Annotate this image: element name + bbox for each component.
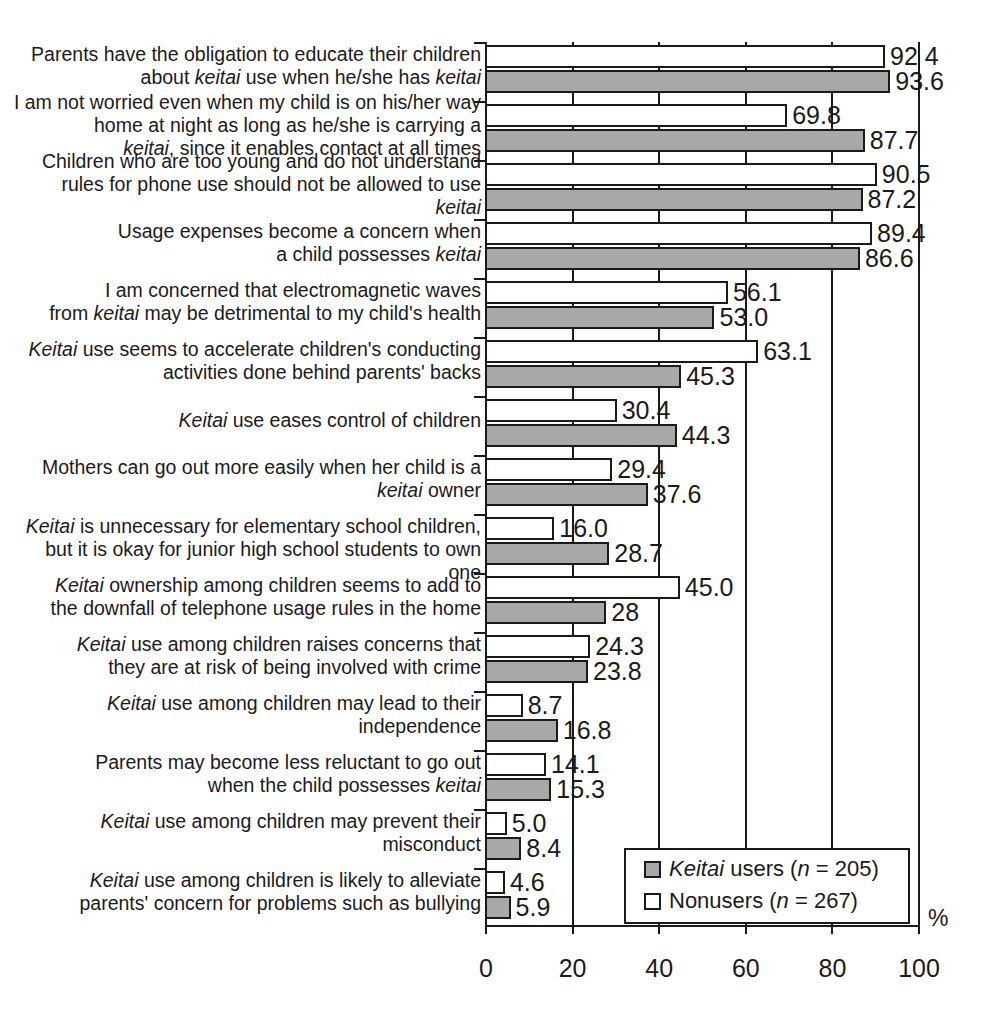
category-label: Keitai use among children raises concern…: [11, 633, 481, 679]
bar-value-users: 87.7: [870, 128, 919, 153]
legend-n-users-italic: n: [797, 856, 809, 881]
bar-users: [485, 719, 558, 742]
bar-nonusers: [485, 163, 877, 186]
category-label: Keitai use among children may prevent th…: [11, 810, 481, 856]
bar-value-users: 5.9: [516, 895, 551, 920]
bar-value-nonusers: 16.0: [559, 516, 608, 541]
category-label: Keitai ownership among children seems to…: [11, 574, 481, 620]
chart-legend: Keitai users (n = 205) Nonusers (n = 267…: [624, 848, 910, 924]
bar-nonusers: [485, 635, 590, 658]
bar-nonusers: [485, 812, 507, 835]
chart-row: I am concerned that electromagnetic wave…: [0, 278, 985, 337]
bar-value-nonusers: 92 4: [890, 44, 939, 69]
category-label: Keitai use among children is likely to a…: [11, 869, 481, 915]
legend-item-nonusers: Nonusers (n = 267): [644, 889, 858, 913]
bar-value-nonusers: 56.1: [733, 280, 782, 305]
category-label: Parents may become less reluctant to go …: [11, 751, 481, 797]
x-tick-label-20: 20: [559, 955, 587, 981]
bar-value-nonusers: 8.7: [528, 693, 563, 718]
bar-users: [485, 188, 863, 211]
bar-value-users: 16.8: [563, 718, 612, 743]
bar-users: [485, 837, 521, 860]
x-tick-label-80: 80: [818, 955, 846, 981]
bar-nonusers: [485, 222, 872, 245]
bar-value-users: 28: [611, 600, 639, 625]
bar-users: [485, 129, 865, 152]
y-tick: [474, 396, 485, 398]
bar-nonusers: [485, 399, 617, 422]
category-label: Keitai use eases control of children: [11, 409, 481, 432]
bar-users: [485, 483, 648, 506]
chart-row: Keitai is unnecessary for elementary sch…: [0, 514, 985, 573]
category-label: Children who are too young and do not un…: [11, 150, 481, 219]
bar-users: [485, 247, 860, 270]
category-label: Mothers can go out more easily when her …: [11, 456, 481, 502]
chart-row: Keitai ownership among children seems to…: [0, 573, 985, 632]
bar-nonusers: [485, 45, 885, 68]
chart-row: Mothers can go out more easily when her …: [0, 455, 985, 514]
bar-value-users: 8.4: [526, 836, 561, 861]
category-label: Keitai use among children may lead to th…: [11, 692, 481, 738]
bar-nonusers: [485, 104, 787, 127]
bar-value-nonusers: 69.8: [792, 103, 841, 128]
bar-value-users: 44.3: [682, 423, 731, 448]
bar-nonusers: [485, 753, 546, 776]
chart-row: Keitai use among children raises concern…: [0, 632, 985, 691]
bar-nonusers: [485, 340, 758, 363]
x-tick-label-0: 0: [479, 955, 493, 981]
bar-users: [485, 365, 681, 388]
chart-row: Keitai use among children may lead to th…: [0, 691, 985, 750]
x-tick-label-100: 100: [898, 955, 940, 981]
bar-value-users: 45.3: [686, 364, 735, 389]
bar-value-users: 53.0: [719, 305, 768, 330]
bar-nonusers: [485, 871, 505, 894]
legend-label-users-rest: users (: [724, 856, 797, 881]
legend-n-users-rest: = 205): [810, 856, 879, 881]
legend-n-nonusers-rest: = 267): [789, 888, 858, 913]
bar-value-users: 86.6: [865, 246, 914, 271]
legend-swatch-nonusers-icon: [644, 893, 661, 910]
bar-value-nonusers: 29.4: [617, 457, 666, 482]
bar-users: [485, 542, 609, 565]
bar-users: [485, 896, 511, 919]
bar-value-users: 87.2: [868, 187, 917, 212]
chart-row: Keitai use eases control of children30.4…: [0, 396, 985, 455]
bar-value-nonusers: 30.4: [622, 398, 671, 423]
legend-swatch-users-icon: [644, 861, 661, 878]
bar-value-nonusers: 5.0: [512, 811, 547, 836]
bar-nonusers: [485, 694, 523, 717]
category-label: Keitai use seems to accelerate children'…: [11, 338, 481, 384]
x-tick-label-60: 60: [732, 955, 760, 981]
bar-value-users: 37.6: [653, 482, 702, 507]
bar-value-nonusers: 89.4: [877, 221, 926, 246]
x-tick-label-40: 40: [645, 955, 673, 981]
bar-value-nonusers: 45.0: [685, 575, 734, 600]
bar-value-nonusers: 63.1: [763, 339, 812, 364]
bar-nonusers: [485, 281, 728, 304]
bar-nonusers: [485, 517, 554, 540]
bar-users: [485, 424, 677, 447]
bar-value-nonusers: 24.3: [595, 634, 644, 659]
category-label: I am concerned that electromagnetic wave…: [11, 279, 481, 325]
bar-chart: 020406080100 % Parents have the obligati…: [0, 0, 985, 1019]
category-label: Parents have the obligation to educate t…: [11, 43, 481, 89]
bar-users: [485, 70, 890, 93]
chart-row: Parents may become less reluctant to go …: [0, 750, 985, 809]
legend-n-nonusers-italic: n: [777, 888, 789, 913]
legend-label-nonusers-rest: Nonusers (: [669, 888, 777, 913]
bar-users: [485, 601, 606, 624]
bar-users: [485, 778, 551, 801]
chart-row: Keitai use seems to accelerate children'…: [0, 337, 985, 396]
bar-value-nonusers: 14.1: [551, 752, 600, 777]
legend-label-users-italic: Keitai: [669, 856, 724, 881]
chart-row: Usage expenses become a concern when a c…: [0, 219, 985, 278]
category-label: Usage expenses become a concern when a c…: [11, 220, 481, 266]
bar-value-users: 28.7: [614, 541, 663, 566]
bar-value-users: 23.8: [593, 659, 642, 684]
bar-value-users: 15.3: [556, 777, 605, 802]
bar-nonusers: [485, 458, 612, 481]
bar-value-users: 93.6: [895, 69, 944, 94]
bar-users: [485, 306, 714, 329]
bar-value-nonusers: 4.6: [510, 870, 545, 895]
chart-row: Children who are too young and do not un…: [0, 160, 985, 219]
